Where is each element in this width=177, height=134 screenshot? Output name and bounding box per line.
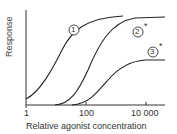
curve-3-asterisk: * bbox=[159, 41, 163, 51]
x-tick-label-1: 1 bbox=[24, 108, 29, 118]
y-axis-label: Response bbox=[4, 16, 14, 57]
x-tick-label-10000: 10 000 bbox=[131, 108, 159, 118]
curve-2-asterisk: * bbox=[144, 21, 148, 31]
x-tick-label-100: 100 bbox=[79, 108, 94, 118]
curve-3 bbox=[72, 60, 165, 105]
x-axis-label: Relative agonist concentration bbox=[26, 121, 147, 131]
curve-2-label: 2 bbox=[135, 27, 139, 36]
curve-3-label: 3 bbox=[150, 47, 154, 56]
curve-1-label: 1 bbox=[71, 25, 75, 34]
